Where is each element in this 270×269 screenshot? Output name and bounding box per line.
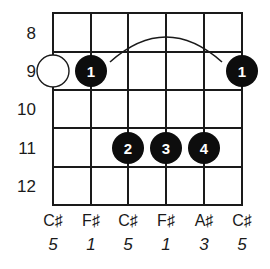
note-label: F♯ [157, 212, 175, 229]
chord-diagram: 8 9 10 11 12 1 1 2 3 4 C♯ F♯ C♯ F♯ A♯ C♯… [0, 0, 270, 269]
finger-number: 1 [238, 63, 246, 80]
interval-label: 1 [86, 235, 95, 254]
interval-label: 5 [123, 235, 133, 254]
note-label: C♯ [232, 212, 252, 229]
root-note-open-circle [37, 55, 69, 87]
finger-dot: 4 [188, 132, 220, 164]
interval-label: 1 [161, 235, 170, 254]
finger-dot: 1 [226, 55, 258, 87]
finger-number: 4 [200, 140, 209, 157]
fret-label: 10 [17, 100, 36, 119]
finger-dot: 1 [75, 55, 107, 87]
finger-number: 2 [124, 140, 132, 157]
fret-label: 11 [18, 139, 36, 158]
fret-label: 8 [27, 24, 36, 43]
note-label: C♯ [118, 212, 138, 229]
note-labels: C♯ F♯ C♯ F♯ A♯ C♯ [43, 212, 252, 229]
interval-label: 3 [199, 235, 209, 254]
finger-dot: 3 [150, 132, 182, 164]
note-label: F♯ [82, 212, 100, 229]
interval-label: 5 [48, 235, 58, 254]
fret-label: 9 [27, 62, 36, 81]
fretboard-outline [53, 13, 242, 205]
fret-labels: 8 9 10 11 12 [17, 24, 36, 196]
fretboard-grid [53, 13, 242, 205]
note-label: C♯ [43, 212, 63, 229]
note-label: A♯ [195, 212, 214, 229]
finger-dot: 2 [112, 132, 144, 164]
finger-number: 1 [87, 63, 95, 80]
interval-label: 5 [237, 235, 247, 254]
fret-label: 12 [17, 177, 36, 196]
interval-labels: 5 1 5 1 3 5 [48, 235, 247, 254]
finger-number: 3 [162, 140, 170, 157]
